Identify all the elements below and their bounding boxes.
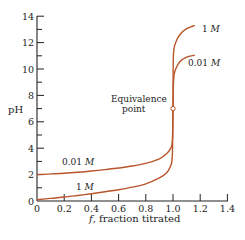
y-ticks: 02468101214	[22, 11, 44, 207]
y-tick-label: 6	[28, 116, 34, 127]
series-label-1M-top: 1 M	[202, 24, 221, 34]
equivalence-label-line2: point	[122, 104, 146, 114]
equivalence-label-line1: Equivalence	[111, 94, 167, 104]
y-axis-title: pH	[8, 104, 23, 115]
x-axis-title: f, fraction titrated	[88, 213, 181, 224]
x-tick-label: 1.2	[193, 203, 208, 214]
y-tick-label: 8	[28, 90, 34, 101]
y-tick-label: 2	[28, 169, 34, 180]
y-tick-label: 10	[22, 64, 34, 75]
x-tick-label: 0	[34, 203, 40, 214]
series-label-1M-bottom: 1 M	[76, 182, 95, 192]
titration-chart: 02468101214 00.20.40.60.81.01.21.4 pH f,…	[0, 0, 245, 240]
x-tick-label: 1.4	[220, 203, 235, 214]
y-tick-label: 14	[22, 11, 34, 22]
y-tick-label: 4	[28, 143, 34, 154]
x-tick-label: 0.2	[57, 203, 72, 214]
y-tick-label: 12	[22, 37, 34, 48]
equivalence-point-marker	[171, 106, 175, 110]
series-label-001M-top: 0.01 M	[188, 58, 221, 68]
series-lines	[37, 25, 195, 199]
series-line-001m	[37, 55, 195, 175]
series-label-001M-bottom: 0.01 M	[62, 157, 95, 167]
x-axis-title-rest: , fraction titrated	[93, 213, 181, 224]
